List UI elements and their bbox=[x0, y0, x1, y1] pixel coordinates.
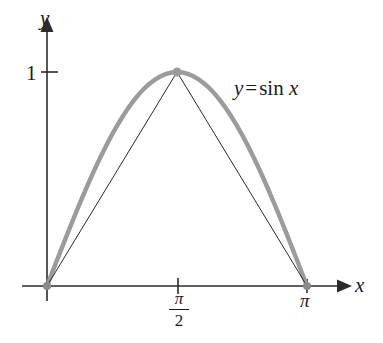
axes-group bbox=[22, 17, 352, 301]
y-axis-label: y bbox=[40, 8, 49, 29]
pi-point bbox=[303, 282, 311, 290]
x-tick-label-pi: π bbox=[300, 291, 310, 310]
equation-lhs: y bbox=[234, 76, 243, 100]
sine-curve-figure: y x 1 π 2 π y=sin x bbox=[0, 0, 383, 343]
x-axis-label: x bbox=[355, 275, 364, 296]
fraction-denominator: 2 bbox=[169, 310, 189, 331]
figure-canvas bbox=[0, 0, 383, 343]
origin-point bbox=[43, 282, 51, 290]
point-markers-group bbox=[43, 68, 311, 291]
x-axis-arrowhead-icon bbox=[337, 280, 352, 293]
fraction-numerator: π bbox=[169, 290, 189, 309]
x-tick-label-pi-over-two: π 2 bbox=[169, 290, 189, 330]
sine-curve bbox=[47, 72, 307, 286]
equation-argument: x bbox=[289, 76, 298, 100]
y-tick-label-one: 1 bbox=[26, 63, 37, 84]
equation-function-name: sin bbox=[259, 76, 284, 100]
equation-operator: = bbox=[243, 76, 259, 100]
peak-point bbox=[173, 68, 182, 77]
curve-equation-label: y=sin x bbox=[234, 78, 298, 99]
inscribed-triangle bbox=[47, 72, 307, 286]
